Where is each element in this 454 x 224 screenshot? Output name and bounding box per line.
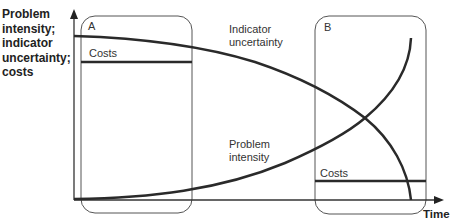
indicator-uncertainty-label: Indicator uncertainty [229,23,283,49]
problem-intensity-label-line: intensity [229,151,270,164]
box-a-label: A [88,20,95,33]
y-axis-arrow-icon [70,9,78,19]
x-axis-arrow-icon [434,196,444,204]
y-axis-label-line: uncertainty; [2,51,71,66]
y-axis-label-line: indicator [2,36,71,51]
indicator-uncertainty-label-line: Indicator [229,23,283,36]
box-b-label: B [324,21,331,34]
y-axis-label-line: costs [2,65,71,80]
problem-intensity-label: Problem intensity [229,138,270,164]
y-axis-label: Problem intensity; indicator uncertainty… [2,7,71,80]
indicator-uncertainty-label-line: uncertainty [229,36,283,49]
costs-label-b: Costs [320,167,348,180]
indicator-uncertainty-curve [74,36,411,200]
x-axis-label: Time [423,208,450,220]
problem-intensity-label-line: Problem [229,138,270,151]
costs-label-a: Costs [89,47,117,60]
y-axis-label-line: Problem [2,7,71,22]
y-axis-label-line: intensity; [2,22,71,37]
